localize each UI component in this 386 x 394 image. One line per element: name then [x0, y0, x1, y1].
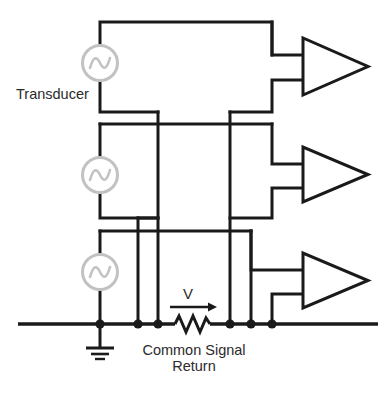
transducer-source-3[interactable] — [83, 255, 118, 290]
bus-node-4 — [225, 319, 234, 328]
return-path-resistor — [175, 316, 210, 332]
voltage-label: V — [183, 286, 193, 303]
amplifier-1[interactable] — [303, 38, 368, 95]
amplifier-3[interactable] — [303, 253, 368, 308]
circuit-diagram-canvas: Transducer V Common Signal Return — [0, 0, 386, 394]
wire-rail2-to-amp2-plus — [272, 124, 303, 164]
wire-source2-bottom-to-branch — [100, 193, 158, 218]
common-signal-return-line1: Common Signal — [142, 342, 245, 358]
wire-rail3-to-amp3-plus — [251, 231, 303, 270]
wire-source1-bottom-to-bus-branch — [100, 81, 158, 112]
wire-amp2-minus-to-return — [230, 188, 303, 218]
amplifier-2[interactable] — [303, 147, 368, 202]
transducer-source-1[interactable] — [83, 46, 118, 81]
bus-node-6 — [267, 319, 276, 328]
circuit-schematic — [0, 0, 386, 394]
wire-amp1-minus-to-return — [230, 80, 303, 112]
wire-amp3-minus-to-bus — [272, 294, 303, 324]
transducer-source-2[interactable] — [83, 158, 118, 193]
bus-node-ground — [95, 319, 104, 328]
transducer-label: Transducer — [16, 86, 89, 102]
bus-node-5 — [246, 319, 255, 328]
bus-node-2 — [133, 319, 142, 328]
current-direction-arrow-icon — [208, 303, 217, 312]
common-signal-return-label: Common Signal Return — [130, 342, 258, 374]
bus-node-3 — [153, 319, 162, 328]
common-signal-return-line2: Return — [130, 358, 258, 374]
